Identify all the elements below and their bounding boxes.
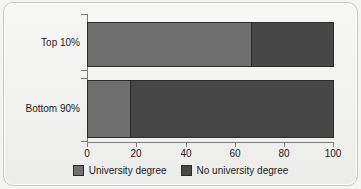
bar-row: [87, 22, 334, 67]
bar-segment: [252, 23, 333, 66]
legend-item-no-university-degree: No university degree: [181, 165, 289, 176]
x-axis-tick: [235, 142, 236, 147]
chart-figure: 0 20 40 60 80 100 Top 10% Bottom 90% Uni…: [0, 0, 361, 189]
legend-label: No university degree: [197, 165, 289, 176]
y-axis-category-label: Bottom 90%: [26, 103, 80, 114]
x-axis-tick: [186, 142, 187, 147]
x-axis-tick-label: 60: [229, 148, 240, 159]
x-axis-tick: [333, 142, 334, 147]
legend-item-university-degree: University degree: [73, 165, 167, 176]
bar-segment: [88, 23, 252, 66]
legend-label: University degree: [89, 165, 167, 176]
x-axis-tick-label: 40: [180, 148, 191, 159]
x-axis-tick-label: 80: [278, 148, 289, 159]
x-axis-tick-label: 20: [130, 148, 141, 159]
legend-swatch-icon: [181, 165, 192, 176]
x-axis-line: [87, 142, 334, 143]
legend-swatch-icon: [73, 165, 84, 176]
y-axis-tick: [81, 70, 87, 71]
chart-legend: University degree No university degree: [0, 165, 361, 176]
bar-segment: [131, 81, 333, 137]
x-axis-tick-label: 100: [325, 148, 342, 159]
bar-row: [87, 80, 334, 138]
y-axis-category-label: Top 10%: [41, 37, 80, 48]
y-axis-tick: [81, 78, 87, 79]
bar-segment: [88, 81, 131, 137]
x-axis-tick-label: 0: [84, 148, 90, 159]
x-axis-tick: [284, 142, 285, 147]
x-axis-tick: [136, 142, 137, 147]
y-axis-tick: [81, 14, 87, 15]
x-axis-tick: [87, 142, 88, 147]
